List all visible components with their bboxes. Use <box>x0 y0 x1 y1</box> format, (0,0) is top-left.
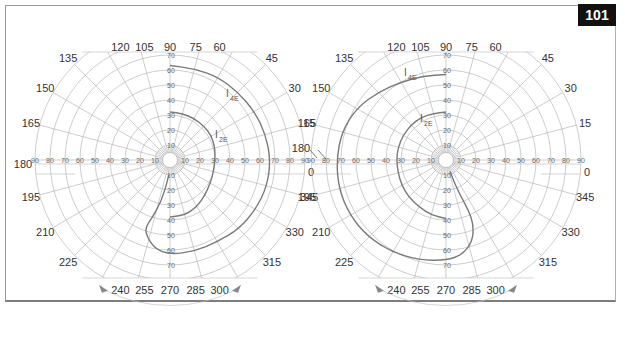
meridian-label-270: 270 <box>437 284 455 296</box>
meridian-135 <box>351 65 441 155</box>
meridian-label-60: 60 <box>489 41 501 53</box>
ring-label-left: 50 <box>367 157 375 164</box>
meridian-label-315: 315 <box>263 256 281 268</box>
ring-label-up: 10 <box>443 142 451 149</box>
meridian-label-225: 225 <box>59 256 77 268</box>
meridian-label-0: 0 <box>584 166 590 178</box>
meridian-210 <box>53 164 163 228</box>
ring-label-left: 60 <box>352 157 360 164</box>
ring-label-left: 20 <box>412 157 420 164</box>
ring-label-left: 10 <box>427 157 435 164</box>
ring-label-up: 10 <box>167 142 175 149</box>
meridian-300 <box>174 166 238 276</box>
meridian-label-45: 45 <box>542 52 554 64</box>
ring-label-right: 10 <box>181 157 189 164</box>
meridian-label-165: 165 <box>22 117 40 129</box>
ring-label-right: 60 <box>256 157 264 164</box>
meridian-label-45: 45 <box>266 52 278 64</box>
meridian-label-195: 195 <box>298 191 316 203</box>
ring-label-up: 50 <box>443 82 451 89</box>
meridian-label-120: 120 <box>387 41 405 53</box>
ring-label-down: 10 <box>443 172 451 179</box>
ring-label-right: 30 <box>487 157 495 164</box>
ring-label-up: 20 <box>167 127 175 134</box>
meridian-330 <box>176 164 286 228</box>
meridian-210 <box>329 164 439 228</box>
ring-label-left: 80 <box>46 157 54 164</box>
ring-label-up: 70 <box>443 52 451 59</box>
arrow-right-icon <box>232 285 241 293</box>
meridian-120 <box>379 43 443 153</box>
meridian-30 <box>452 93 562 157</box>
meridian-label-150: 150 <box>36 82 54 94</box>
ring-label-right: 80 <box>286 157 294 164</box>
meridian-label-30: 30 <box>565 82 577 94</box>
meridian-150 <box>329 93 439 157</box>
isopter-sublabel-I4E: 4E <box>230 95 239 102</box>
meridian-label-285: 285 <box>186 284 204 296</box>
isopter-sublabel-I4E: 4E <box>408 74 417 81</box>
isopter-label-I4E: I <box>404 67 407 78</box>
ring-label-right: 10 <box>457 157 465 164</box>
ring-label-left: 70 <box>61 157 69 164</box>
ring-label-up: 40 <box>443 97 451 104</box>
ring-label-down: 30 <box>167 202 175 209</box>
ring-label-right: 50 <box>241 157 249 164</box>
ring-label-left: 50 <box>91 157 99 164</box>
ring-label-left: 40 <box>106 157 114 164</box>
ring-label-down: 60 <box>443 247 451 254</box>
ring-label-down: 50 <box>167 232 175 239</box>
ring-label-left: 70 <box>337 157 345 164</box>
ring-label-right: 50 <box>517 157 525 164</box>
ring-label-left: 90 <box>31 157 39 164</box>
ring-label-left: 60 <box>76 157 84 164</box>
ring-label-down: 30 <box>443 202 451 209</box>
isopter-sublabel-I2E: 2E <box>424 120 433 127</box>
meridian-label-90: 90 <box>440 41 452 53</box>
meridian-label-255: 255 <box>411 284 429 296</box>
meridian-315 <box>175 165 265 255</box>
isopter-label-I4E: I <box>226 88 229 99</box>
meridian-label-180: 180 <box>14 158 32 170</box>
meridian-label-60: 60 <box>213 41 225 53</box>
ring-label-left: 10 <box>151 157 159 164</box>
meridian-150 <box>53 93 163 157</box>
meridian-label-210: 210 <box>36 226 54 238</box>
meridian-label-120: 120 <box>111 41 129 53</box>
meridian-label-330: 330 <box>286 226 304 238</box>
ring-label-up: 30 <box>443 112 451 119</box>
ring-label-down: 40 <box>167 217 175 224</box>
ring-label-up: 60 <box>167 67 175 74</box>
right-visual-field-chart: 1010202030304040505060607070808090901010… <box>292 25 594 306</box>
meridian-240 <box>103 166 167 276</box>
ring-label-right: 20 <box>196 157 204 164</box>
meridian-label-270: 270 <box>161 284 179 296</box>
meridian-label-75: 75 <box>190 41 202 53</box>
ring-label-up: 50 <box>167 82 175 89</box>
meridian-300 <box>450 166 514 276</box>
meridian-30 <box>176 93 286 157</box>
left-visual-field-chart: 1010202030304040505060607070808090901010… <box>14 25 318 306</box>
ring-label-right: 20 <box>472 157 480 164</box>
meridian-label-15: 15 <box>579 117 591 129</box>
arrow-left-icon <box>375 285 384 293</box>
ring-label-left: 90 <box>307 157 315 164</box>
ring-label-left: 80 <box>322 157 330 164</box>
meridian-label-105: 105 <box>135 41 153 53</box>
meridian-label-135: 135 <box>335 52 353 64</box>
ring-label-left: 20 <box>136 157 144 164</box>
isopter-I4E <box>337 75 473 261</box>
meridian-label-210: 210 <box>312 226 330 238</box>
meridian-label-135: 135 <box>59 52 77 64</box>
meridian-label-285: 285 <box>462 284 480 296</box>
meridian-225 <box>351 165 441 255</box>
arrow-left-icon <box>99 285 108 293</box>
meridian-label-105: 105 <box>411 41 429 53</box>
ring-label-down: 70 <box>443 262 451 269</box>
meridian-315 <box>451 165 541 255</box>
ring-label-left: 40 <box>382 157 390 164</box>
meridian-135 <box>75 65 165 155</box>
meridian-label-315: 315 <box>539 256 557 268</box>
ring-label-down: 50 <box>443 232 451 239</box>
ring-label-up: 20 <box>443 127 451 134</box>
